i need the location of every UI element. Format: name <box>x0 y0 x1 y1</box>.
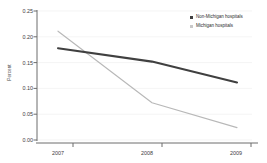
legend-swatch-icon <box>190 16 193 19</box>
series-line-non-michigan-hospitals <box>58 48 237 82</box>
chart-legend: Non-Michigan hospitals Michigan hospital… <box>190 13 243 31</box>
x-axis-ticks <box>73 143 251 147</box>
y-axis-ticks <box>34 11 38 140</box>
line-chart: Percent 0.00 0.05 0.10 0.15 0.20 0.25 20… <box>0 0 267 163</box>
legend-item-non-michigan-hospitals: Non-Michigan hospitals <box>190 13 243 22</box>
legend-swatch-icon <box>190 25 193 28</box>
legend-label: Non-Michigan hospitals <box>196 15 243 20</box>
legend-item-michigan-hospitals: Michigan hospitals <box>190 22 243 31</box>
legend-label: Michigan hospitals <box>196 24 233 29</box>
series-line-michigan-hospitals <box>58 31 237 127</box>
